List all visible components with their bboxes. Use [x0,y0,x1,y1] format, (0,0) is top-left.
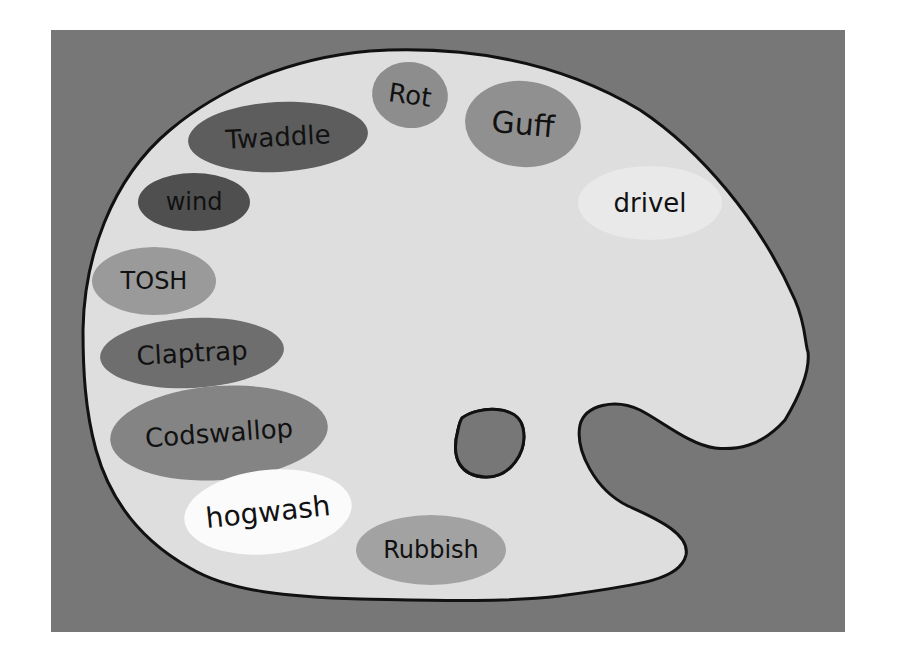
paint-blob-label: Twaddle [224,119,331,155]
paint-blob-rubbish: Rubbish [356,515,506,585]
paint-blob-label: Guff [490,104,557,144]
paint-blob-label: Rubbish [383,536,479,564]
paint-blob-label: Rot [387,77,434,113]
paint-blob-label: drivel [613,188,686,218]
paint-blob-label: Claptrap [136,335,249,371]
paint-blob-drivel: drivel [578,166,722,240]
paint-blob-label: wind [166,188,223,216]
paint-blob-tosh: TOSH [92,247,216,315]
palette-illustration: RotGuffTwaddlewinddrivelTOSHClaptrapCods… [0,0,906,671]
paint-blob-wind: wind [138,173,250,231]
paint-blob-label: TOSH [120,267,188,295]
